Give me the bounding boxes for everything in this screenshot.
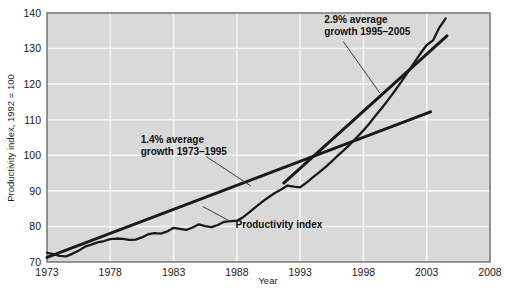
x-tick-label-2008: 2008: [478, 266, 502, 278]
y-tick-label-100: 100: [23, 149, 41, 161]
chart-figure: 708090100110120130140 197319781983198819…: [0, 0, 505, 289]
y-axis-title: Productivity index, 1992 = 100: [5, 74, 16, 202]
y-tick-label-80: 80: [29, 220, 41, 232]
x-tick-label-1978: 1978: [99, 266, 123, 278]
y-tick-label-140: 140: [23, 7, 41, 19]
y-tick-label-110: 110: [24, 114, 41, 126]
x-axis-title: Year: [258, 275, 277, 286]
x-tick-label-2003: 2003: [415, 266, 439, 278]
productivity-index-chart: 708090100110120130140 197319781983198819…: [0, 0, 505, 289]
x-tick-label-1993: 1993: [288, 266, 312, 278]
y-tick-label-90: 90: [29, 185, 41, 197]
x-tick-label-1988: 1988: [225, 266, 249, 278]
y-tick-label-120: 120: [23, 78, 41, 90]
x-tick-label-1998: 1998: [352, 266, 376, 278]
x-tick-label-1983: 1983: [162, 266, 186, 278]
y-tick-label-130: 130: [23, 42, 41, 54]
annot-productivity-index: Productivity index: [236, 219, 323, 230]
x-tick-label-1973: 1973: [35, 266, 59, 278]
